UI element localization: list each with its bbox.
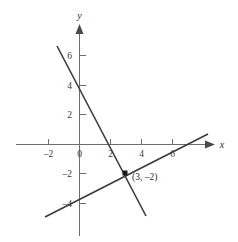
y-tick-label: 2 [67, 110, 72, 120]
x-axis-arrow-icon [205, 141, 215, 149]
plotted-lines-group [45, 46, 208, 217]
y-tick-label: 6 [67, 51, 72, 61]
line-steep-negative-slope [57, 46, 146, 216]
y-tick-label: –2 [62, 169, 73, 179]
x-tick-label: 0 [77, 149, 82, 159]
y-tick-label: 4 [67, 81, 72, 91]
x-tick-label: 4 [139, 149, 144, 159]
y-tick-marks-group [79, 56, 86, 204]
graph-canvas: –2 0 2 4 6 6 4 2 –2 –4 x y (3, –2) [0, 0, 238, 242]
y-axis-arrow-icon [76, 24, 84, 34]
intersection-point-label: (3, –2) [132, 172, 157, 183]
y-axis-label: y [76, 10, 82, 21]
x-axis-label: x [219, 139, 225, 150]
x-tick-label: –2 [43, 149, 54, 159]
y-tick-label: –4 [62, 199, 73, 209]
x-tick-marks-group [49, 139, 173, 144]
x-tick-label: 2 [108, 149, 113, 159]
coordinate-plane-figure: –2 0 2 4 6 6 4 2 –2 –4 x y (3, –2) [0, 0, 238, 242]
x-tick-label: 6 [170, 149, 175, 159]
intersection-point-marker [123, 171, 128, 176]
axes-group [16, 24, 215, 236]
